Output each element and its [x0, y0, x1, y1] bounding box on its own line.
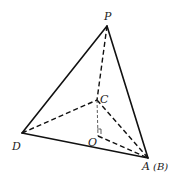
edge-OA — [98, 136, 148, 158]
edge-PD — [22, 26, 107, 133]
pyramid-diagram: P C D O A (B) — [0, 0, 183, 181]
label-P: P — [103, 10, 112, 23]
label-O: O — [88, 136, 97, 149]
edge-PA — [107, 26, 148, 158]
label-C: C — [100, 93, 109, 106]
label-D: D — [11, 140, 21, 153]
label-A: A — [141, 160, 150, 173]
label-B: (B) — [153, 161, 168, 172]
edge-CO — [97, 100, 98, 136]
edge-DC — [22, 100, 97, 133]
